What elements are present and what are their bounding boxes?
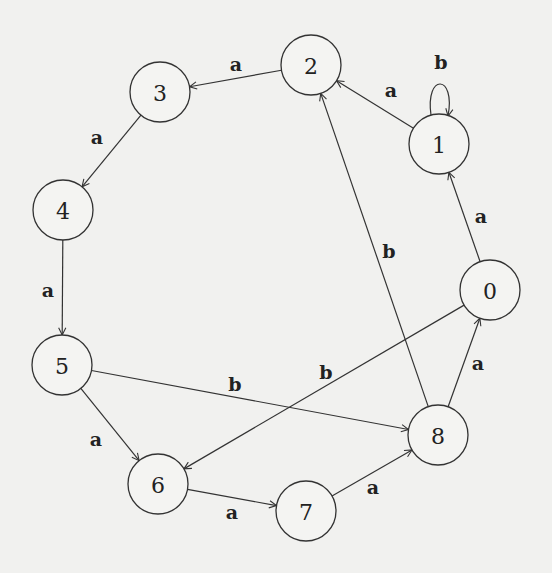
edge-label-6-to-7: a (226, 501, 238, 523)
edge-5-to-8 (91, 370, 408, 429)
state-label: 0 (483, 279, 497, 304)
state-node-8: 8 (408, 405, 468, 465)
nodes-layer: 012345678 (32, 35, 520, 541)
state-node-1: 1 (409, 114, 469, 174)
state-node-2: 2 (281, 35, 341, 95)
edge-label-1-to-1: b (434, 51, 447, 73)
edge-label-7-to-8: a (367, 476, 379, 498)
state-label: 8 (431, 424, 445, 449)
state-node-5: 5 (32, 335, 92, 395)
edge-1-to-2 (337, 81, 414, 128)
edge-label-8-to-2: b (382, 240, 395, 262)
state-label: 5 (55, 354, 69, 379)
edge-1-to-1 (430, 84, 449, 116)
state-node-6: 6 (128, 454, 188, 514)
state-label: 2 (304, 54, 318, 79)
edge-4-to-5 (62, 240, 63, 335)
state-label: 6 (151, 473, 165, 498)
state-label: 1 (432, 133, 446, 158)
edge-label-2-to-3: a (230, 53, 242, 75)
state-node-4: 4 (33, 180, 93, 240)
edge-label-8-to-0: a (472, 352, 484, 374)
state-node-7: 7 (276, 481, 336, 541)
edge-label-4-to-5: a (42, 279, 54, 301)
edge-label-5-to-8: b (228, 373, 241, 395)
state-label: 3 (153, 81, 167, 106)
edge-label-0-to-1: a (475, 205, 487, 227)
automaton-diagram: 012345678 abaaaaabbaaab (0, 0, 552, 573)
state-label: 7 (299, 500, 313, 525)
edge-label-3-to-4: a (91, 126, 103, 148)
state-node-0: 0 (460, 260, 520, 320)
state-node-3: 3 (130, 62, 190, 122)
edge-label-0-to-6: b (319, 361, 332, 383)
edge-label-1-to-2: a (385, 79, 397, 101)
state-label: 4 (56, 199, 70, 224)
edge-label-5-to-6: a (90, 428, 102, 450)
